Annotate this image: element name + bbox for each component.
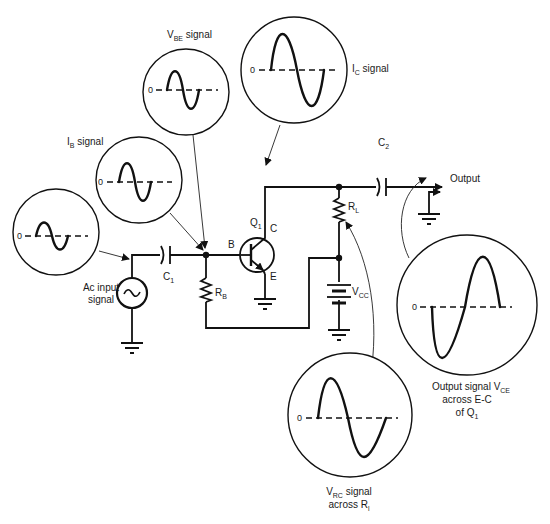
svg-text:0: 0 [98, 177, 103, 187]
svg-text:of Q1: of Q1 [456, 407, 479, 420]
svg-text:0: 0 [17, 231, 22, 241]
c1-label: C1 [163, 271, 174, 284]
capacitor-c2 [377, 178, 386, 196]
amplifier-diagram: B C E Q1 C1 C2 RB RL VCC Ac input signal… [0, 0, 550, 524]
svg-text:IB signal: IB signal [67, 136, 103, 149]
base-junction [203, 252, 209, 258]
q1-label: Q1 [250, 217, 262, 230]
svg-text:0: 0 [148, 85, 153, 95]
c2-label: C2 [378, 137, 389, 150]
source-label-line2: signal [88, 294, 114, 305]
svg-text:VRC signal: VRC signal [326, 486, 372, 499]
ground-icon-output [418, 214, 440, 224]
capacitor-c1 [161, 246, 170, 264]
resistor-rl [334, 198, 344, 222]
svg-text:VBE signal: VBE signal [167, 29, 212, 42]
rb-label: RB [215, 287, 227, 300]
vce-signal-bubble: 0 Output signal VCE across E-C of Q1 [397, 235, 537, 420]
vbe-signal-bubble: 0 VBE signal [143, 29, 229, 135]
resistor-rb [201, 278, 211, 302]
vrc-signal-bubble: 0 VRC signal across Rl [288, 353, 412, 512]
emitter-label: E [270, 271, 277, 282]
vcc-label: VCC [352, 286, 369, 299]
svg-text:across Rl: across Rl [328, 499, 369, 512]
ic-signal-bubble: 0 IC signal [241, 17, 389, 123]
circuit-wires [132, 187, 442, 340]
svg-text:0: 0 [412, 302, 417, 312]
output-label: Output [450, 173, 480, 184]
svg-text:0: 0 [250, 65, 255, 75]
rl-label: RL [348, 201, 359, 214]
ground-icon-source [121, 340, 143, 353]
collector-junction [336, 184, 342, 190]
base-label: B [228, 239, 235, 250]
transistor-q1 [240, 234, 274, 274]
vcc-junction [336, 255, 342, 261]
source-label-line1: Ac input [83, 282, 119, 293]
ac-source [117, 278, 147, 308]
svg-text:0: 0 [297, 413, 302, 423]
collector-label: C [270, 223, 277, 234]
ground-icon-battery [328, 330, 350, 340]
ground-icon-emitter [254, 296, 276, 309]
input-signal-bubble: 0 [13, 189, 99, 275]
svg-text:Output signal VCE: Output signal VCE [432, 381, 510, 394]
svg-text:across E-C: across E-C [442, 394, 491, 405]
svg-text:IC signal: IC signal [352, 63, 389, 76]
